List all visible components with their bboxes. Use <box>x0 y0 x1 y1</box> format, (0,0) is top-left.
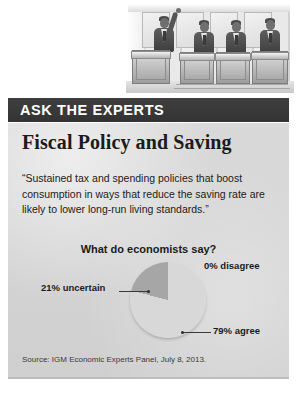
leader-dot-uncertain <box>147 290 150 293</box>
podium <box>180 52 214 84</box>
source-note: Source: IGM Economic Experts Panel, July… <box>22 355 206 364</box>
chart-title: What do economists say? <box>8 243 289 255</box>
page-title: Fiscal Policy and Saving <box>22 131 232 154</box>
leader-line-agree <box>183 332 211 333</box>
banner-label: ASK THE EXPERTS <box>20 102 164 118</box>
leader-dot-agree <box>181 331 184 334</box>
illustration-area <box>0 0 301 98</box>
pie-chart: 0% disagree 21% uncertain 79% agree <box>8 255 289 347</box>
pie-label-disagree: 0% disagree <box>204 260 259 271</box>
podium <box>216 52 250 84</box>
floor-line <box>174 88 290 89</box>
leader-line-uncertain <box>119 291 149 292</box>
content-panel: Fiscal Policy and Saving “Sustained tax … <box>8 123 289 379</box>
pie-label-agree: 79% agree <box>213 325 260 336</box>
podium <box>132 50 170 84</box>
pie-slices <box>130 262 206 338</box>
floor-line <box>176 84 288 85</box>
ask-the-experts-panel-illustration <box>118 2 294 94</box>
ask-the-experts-banner: ASK THE EXPERTS <box>8 98 289 122</box>
quote-text: “Sustained tax and spending policies tha… <box>22 171 278 218</box>
podium <box>252 51 288 84</box>
pie-label-uncertain: 21% uncertain <box>41 282 105 293</box>
